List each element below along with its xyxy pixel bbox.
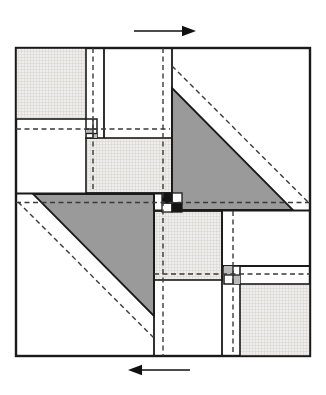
stippled-square-bottom-right xyxy=(240,284,310,356)
shear-arrow-bottom xyxy=(128,365,190,375)
stippled-square-top-left xyxy=(16,48,86,119)
stippled-square-mid-right xyxy=(154,211,222,280)
shear-arrow-bottom-head xyxy=(128,365,142,375)
stippled-square-mid-left xyxy=(86,138,172,193)
scanned-figure-page xyxy=(0,0,326,395)
shear-arrow-top-head xyxy=(182,26,196,36)
mini-grid-lower-right-gray-cell-1 xyxy=(233,275,240,284)
center-black-cell-1 xyxy=(172,203,182,212)
shear-arrow-top xyxy=(134,26,196,36)
dissection-diagram xyxy=(0,0,326,395)
center-white-cell-0 xyxy=(172,193,182,203)
